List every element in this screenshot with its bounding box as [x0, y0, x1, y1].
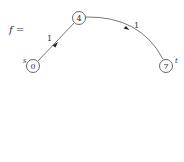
edge-label: 1 — [134, 21, 139, 30]
node-value: 7 — [163, 62, 168, 71]
flow-diagram: f = 1 1 0 s 4 7 t — [0, 0, 184, 162]
flow-label: f = — [8, 24, 24, 35]
node-middle: 4 — [73, 12, 86, 25]
node-side-label: s — [23, 57, 27, 65]
diagram-svg: f = 1 1 0 s 4 7 t — [0, 0, 184, 162]
edge-label: 1 — [47, 34, 52, 43]
node-value: 4 — [76, 14, 81, 23]
edge-4-to-7: 1 — [86, 17, 163, 59]
edge-4-to-0: 1 — [38, 23, 74, 61]
node-side-label: t — [175, 57, 178, 65]
node-value: 0 — [30, 62, 35, 71]
node-s: 0 s — [23, 57, 40, 73]
arrowhead-icon — [124, 26, 130, 30]
node-t: 7 t — [160, 57, 179, 73]
